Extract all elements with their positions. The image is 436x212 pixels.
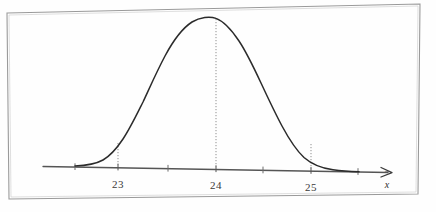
tick-label-25: 25 (305, 181, 317, 193)
normal-curve-figure: 23 24 25 ‾ x (0, 0, 436, 212)
x-axis (43, 167, 392, 178)
tick-label-23: 23 (112, 178, 124, 190)
tick-label-24: 24 (210, 179, 222, 191)
figure-canvas: 23 24 25 ‾ x (0, 0, 436, 212)
x-axis-label-text: x (384, 179, 390, 190)
normal-curve (75, 17, 359, 172)
